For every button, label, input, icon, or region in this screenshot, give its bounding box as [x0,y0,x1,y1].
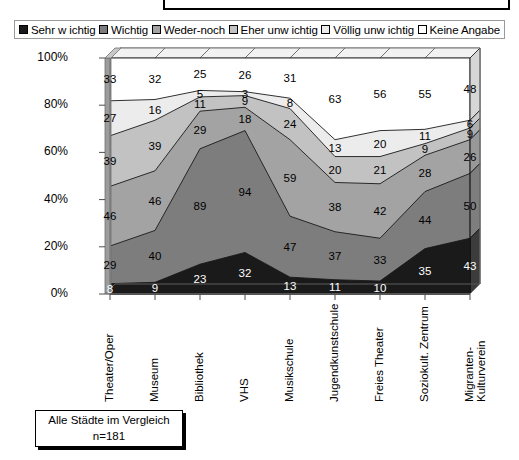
data-label-s1-c6: 33 [374,254,387,266]
caption-line-1: Alle Städte im Vergleich [48,413,169,429]
legend-label-3: Eher unw ichtig [241,24,318,36]
data-label-s2-c5: 38 [329,201,342,213]
data-label-s0-c3: 32 [239,267,252,279]
legend-swatch-weder-noch [152,25,161,34]
data-label-s4-c1: 16 [149,104,162,116]
legend-label-1: Wichtig [111,24,148,36]
data-label-s2-c2: 29 [194,124,207,136]
x-tick-label-2: Bibliothek [193,302,205,402]
data-label-s4-c0: 27 [104,112,117,124]
data-label-s4-c4: 8 [287,97,293,109]
data-label-s3-c2: 11 [194,98,206,110]
legend-item-3: Eher unw ichtig [229,24,318,36]
data-label-s1-c0: 29 [104,259,117,271]
legend-item-0: Sehr w ichtig [19,24,96,36]
data-label-s0-c2: 23 [194,273,207,285]
data-label-s2-c6: 42 [374,205,387,217]
y-tick-label-4: 20% [22,239,68,253]
data-label-s3-c0: 39 [104,155,117,167]
data-label-s3-c7: 9 [422,143,428,155]
legend-item-4: Völlig unw ichtig [321,24,414,36]
y-tick-label-3: 40% [22,192,68,206]
data-label-s4-c2: 5 [197,88,203,100]
legend-item-1: Wichtig [99,24,148,36]
data-label-s5-c6: 56 [374,88,387,100]
data-label-s2-c4: 59 [284,172,297,184]
data-label-s5-c5: 63 [329,93,342,105]
data-label-s0-c7: 35 [419,265,432,277]
data-label-s3-c4: 24 [284,118,297,130]
data-label-s1-c3: 94 [239,186,252,198]
data-label-s0-c6: 10 [374,282,387,294]
data-label-s2-c7: 28 [419,167,432,179]
x-tick-label-1: Museum [148,302,160,402]
data-label-s1-c8: 50 [464,200,477,212]
stacked-area-chart: 8923321311103543294089944737334450464629… [0,44,519,314]
data-label-s1-c4: 47 [284,241,297,253]
x-tick-label-6: Freies Theater [373,302,385,402]
data-label-s4-c5: 13 [329,142,342,154]
data-label-s4-c6: 20 [374,138,387,150]
x-tick-label-8: Migranten- Kulturverein [463,302,487,402]
y-tick-label-0: 100% [22,50,68,64]
data-label-s5-c1: 32 [149,73,162,85]
data-label-s2-c0: 46 [104,210,117,222]
legend-swatch-wichtig [99,25,108,34]
data-label-s0-c5: 11 [329,281,341,293]
legend-item-5: Keine Angabe [418,24,500,36]
data-label-s3-c5: 20 [329,164,342,176]
data-label-s2-c8: 26 [464,151,477,163]
data-label-s4-c7: 11 [419,130,431,142]
data-label-s0-c0: 8 [107,283,113,295]
data-label-s3-c6: 21 [374,164,387,176]
legend-swatch-sehr-wichtig [19,25,28,34]
data-label-s5-c3: 26 [239,69,252,81]
data-label-s5-c2: 25 [194,68,207,80]
data-label-s0-c1: 9 [152,282,158,294]
data-label-s5-c4: 31 [284,72,297,84]
data-label-s1-c2: 89 [194,200,207,212]
x-tick-label-4: Musikschule [283,302,295,402]
data-label-s1-c7: 44 [419,214,432,226]
x-tick-label-5: Jugendkunstschule [328,302,340,402]
legend-label-2: Weder-noch [164,24,225,36]
data-label-s2-c1: 46 [149,195,162,207]
legend-label-4: Völlig unw ichtig [333,24,414,36]
data-label-s5-c7: 55 [419,88,432,100]
data-label-s0-c4: 13 [284,280,297,292]
data-label-s1-c5: 37 [329,250,342,262]
data-label-s0-c8: 43 [464,260,477,272]
plot-area: 8923321311103543294089944737334450464629… [0,44,519,314]
legend-swatch-voellig-unwichtig [321,25,330,34]
x-tick-label-7: Soziokult. Zentrum [418,302,430,402]
top-frame-border [163,0,510,10]
data-label-s4-c8: 6 [467,118,473,130]
data-label-s3-c1: 39 [149,140,162,152]
data-label-s5-c0: 33 [104,73,117,85]
legend-label-5: Keine Angabe [430,24,500,36]
y-tick-label-1: 80% [22,97,68,111]
caption-box: Alle Städte im Vergleich n=181 [35,410,183,447]
data-label-s5-c8: 48 [464,83,477,95]
data-label-s1-c1: 40 [149,250,162,262]
legend-item-2: Weder-noch [152,24,225,36]
chart-page: Sehr w ichtigWichtigWeder-nochEher unw i… [0,0,519,460]
y-tick-label-5: 0% [22,286,68,300]
data-label-s4-c3: 3 [242,88,248,100]
legend-swatch-keine-angabe [418,25,427,34]
x-tick-label-3: VHS [238,302,250,402]
x-tick-label-0: Theater/Oper [103,302,115,402]
chart-legend: Sehr w ichtigWichtigWeder-nochEher unw i… [14,20,505,39]
legend-swatch-eher-unwichtig [229,25,238,34]
y-tick-label-2: 60% [22,144,68,158]
data-label-s2-c3: 18 [239,113,252,125]
caption-line-2: n=181 [93,429,125,445]
legend-label-0: Sehr w ichtig [31,24,96,36]
